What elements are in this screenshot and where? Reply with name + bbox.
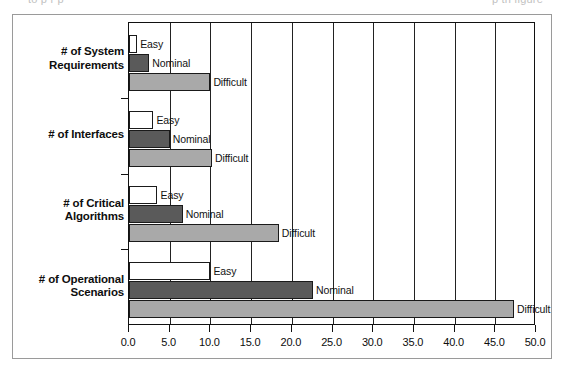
category-axis-tick xyxy=(121,249,128,250)
x-axis-tick xyxy=(494,325,495,332)
category-axis-tick xyxy=(121,174,128,175)
x-axis-tick xyxy=(332,325,333,332)
x-axis-tick xyxy=(372,325,373,332)
bar-chart: to p r p p th figure # of SystemRequirem… xyxy=(0,0,567,375)
x-axis-tick-label: 0.0 xyxy=(108,336,148,348)
x-axis-tick-label: 45.0 xyxy=(474,336,514,348)
x-axis-tick xyxy=(413,325,414,332)
x-axis-tick-label: 35.0 xyxy=(393,336,433,348)
x-axis-tick-label: 30.0 xyxy=(352,336,392,348)
x-axis-tick xyxy=(291,325,292,332)
x-axis-tick xyxy=(169,325,170,332)
category-axis-tick xyxy=(121,98,128,99)
x-axis-tick xyxy=(250,325,251,332)
x-axis-tick xyxy=(128,325,129,332)
x-axis-tick-label: 10.0 xyxy=(189,336,229,348)
x-axis-tick-label: 40.0 xyxy=(434,336,474,348)
x-axis-tick-label: 25.0 xyxy=(312,336,352,348)
x-axis-tick xyxy=(535,325,536,332)
x-axis-tick-label: 15.0 xyxy=(230,336,270,348)
x-axis-tick-label: 20.0 xyxy=(271,336,311,348)
x-axis-tick-label: 50.0 xyxy=(515,336,555,348)
x-axis: 0.05.010.015.020.025.030.035.040.045.050… xyxy=(0,0,567,375)
x-axis-tick xyxy=(209,325,210,332)
x-axis-tick xyxy=(454,325,455,332)
x-axis-tick-label: 5.0 xyxy=(149,336,189,348)
